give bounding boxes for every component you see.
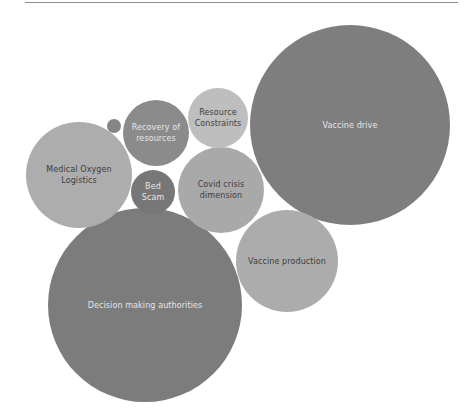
bubble-label: Vaccine production [245,256,329,267]
bubble-resource-constraints[interactable]: Resource Constraints [188,88,248,148]
bubble-bed-scam[interactable]: Bed Scam [131,170,175,214]
bubble-decision-making-authorities[interactable]: Decision making authorities [48,208,242,402]
bubble-recovery-of-resources[interactable]: Recovery of resources [123,100,189,166]
bubble-label: Medical Oxygen Logistics [43,164,114,186]
bubble-label: Bed Scam [131,181,175,203]
top-divider [25,2,458,3]
bubble-label: Resource Constraints [192,107,245,129]
bubble-vaccine-production[interactable]: Vaccine production [236,210,338,312]
bubble-label: Recovery of resources [129,122,183,144]
bubble-vaccine-drive[interactable]: Vaccine drive [250,25,450,225]
bubble-covid-crisis-dimension[interactable]: Covid crisis dimension [178,147,264,233]
bubble-label: Vaccine drive [320,120,381,131]
bubble-medical-oxygen-logistics[interactable]: Medical Oxygen Logistics [26,122,132,228]
bubble-label: Decision making authorities [85,300,206,311]
bubble-unlabeled-small[interactable] [107,119,121,133]
bubble-label: Covid crisis dimension [195,179,248,201]
